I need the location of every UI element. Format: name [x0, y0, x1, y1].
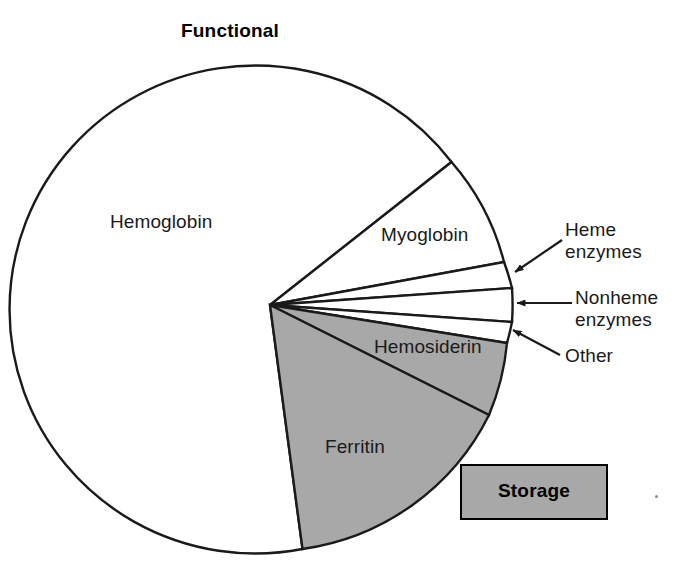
- callout-label-other-text: Other: [565, 345, 613, 367]
- slice-label-hemosiderin: Hemosiderin: [374, 336, 482, 358]
- callout-line-other: [513, 330, 560, 355]
- scan-artifact-speck: [655, 495, 658, 498]
- slice-label-ferritin: Ferritin: [325, 436, 385, 458]
- slice-label-myoglobin: Myoglobin: [381, 224, 469, 246]
- callout-label-nonheme-enzymes: Nonheme enzymes: [575, 287, 658, 331]
- slice-label-hemoglobin: Hemoglobin: [110, 211, 212, 233]
- callout-label-heme-enzymes: Heme enzymes: [565, 219, 642, 263]
- callout-label-nonheme-enzymes-line1: Nonheme: [575, 287, 658, 309]
- callout-label-nonheme-enzymes-line2: enzymes: [575, 309, 658, 331]
- callout-label-heme-enzymes-line2: enzymes: [565, 241, 642, 263]
- callout-label-heme-enzymes-line1: Heme: [565, 219, 642, 241]
- callout-label-other: Other: [565, 345, 613, 367]
- callout-line-heme-enzymes: [515, 240, 562, 272]
- legend-label-storage: Storage: [460, 480, 608, 502]
- pie-chart-figure: Functional Hemoglobin Myoglobin Hemoside…: [0, 0, 684, 578]
